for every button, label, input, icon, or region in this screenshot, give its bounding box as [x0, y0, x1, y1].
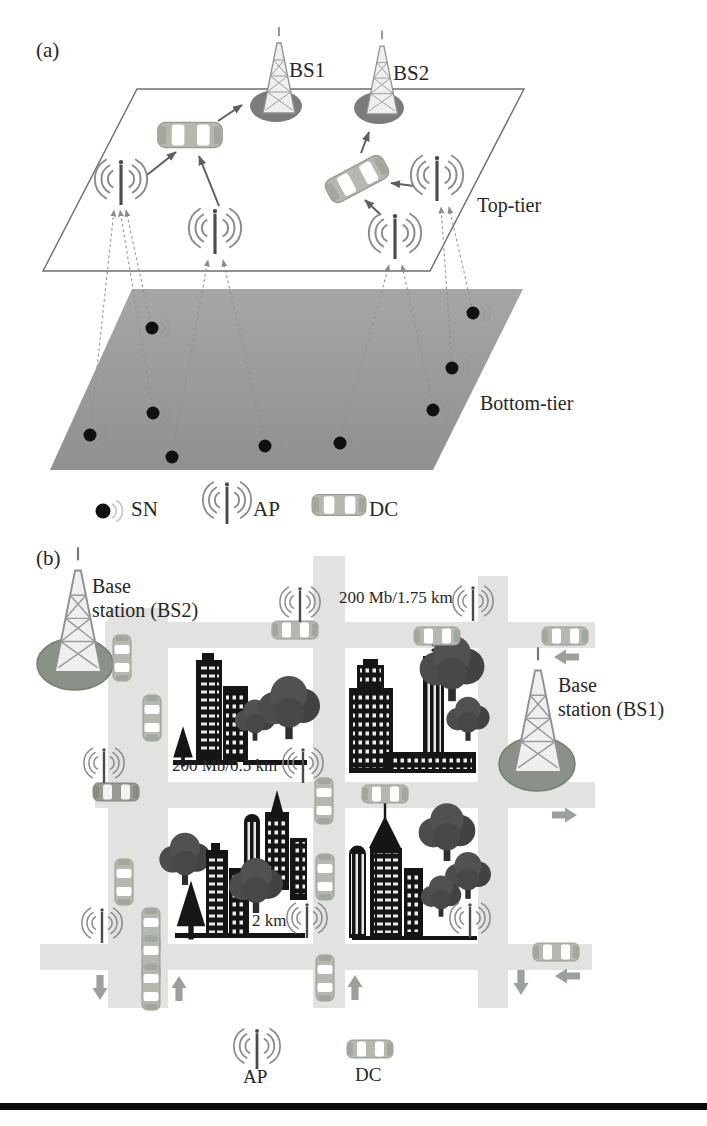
legend-dc-icon [312, 494, 366, 515]
panel-a [43, 27, 524, 524]
bottom-tier-label: Bottom-tier [480, 392, 573, 416]
legend-dc-label: DC [369, 497, 398, 522]
legend-b-dc-label: DC [355, 1064, 381, 1086]
figure-graphics [0, 0, 707, 1126]
dc-car-icon [143, 695, 161, 741]
dc-car-icon [316, 854, 334, 900]
bs1-label: BS1 [289, 58, 325, 83]
dc-car-icon [414, 627, 460, 645]
dc-car-icon [272, 621, 318, 639]
bottom-divider-bar [0, 1103, 707, 1110]
traffic-arrow-down-icon [514, 970, 529, 995]
dc-car-icon [115, 859, 133, 905]
traffic-arrow-left-icon [554, 650, 579, 665]
base-station-bs2-label: Base station (BS2) [92, 575, 198, 622]
dc-car-icon [362, 785, 408, 803]
bs1-tower-icon [515, 647, 561, 772]
legend-sn-icon [96, 500, 123, 522]
panel-a-label: (a) [36, 38, 59, 63]
panel-b-label: (b) [36, 546, 61, 571]
road-horizontal-top [105, 622, 595, 648]
city-block-top-right [349, 635, 490, 773]
bs2-label: BS2 [393, 61, 429, 86]
pine-tree-icon [177, 881, 206, 940]
figure-canvas: (a) BS1 BS2 Top-tier Bottom-tier SN AP D… [0, 0, 707, 1126]
panel-b [37, 547, 595, 1069]
legend-ap-label: AP [253, 497, 280, 522]
link-top-label: 200 Mb/1.75 km [339, 588, 453, 608]
dc-car-icon [142, 964, 160, 1010]
traffic-arrow-down-icon [93, 975, 108, 1000]
dc-car-icon [316, 955, 334, 1001]
dc-car-icon [533, 943, 579, 961]
bottom-tier-plane [50, 289, 523, 470]
traffic-arrow-right-icon [552, 808, 577, 823]
traffic-arrow-up-icon [348, 975, 363, 1000]
legend-ap-icon [203, 482, 251, 524]
legend-sn-label: SN [131, 497, 158, 522]
dc-car-icon [93, 783, 139, 801]
dc-car-icon [113, 635, 131, 681]
link-left-label: 200 Mb/0.5 km [172, 756, 277, 776]
city-block-top-left [173, 653, 320, 767]
dc-car-icon [158, 122, 222, 147]
legend-b-ap-label: AP [243, 1066, 267, 1088]
dc-car-icon [542, 627, 588, 645]
traffic-arrow-up-icon [172, 976, 187, 1001]
legend-ap-icon [234, 1029, 280, 1069]
link-bottom-label: 2 km [252, 911, 286, 931]
base-station-bs1-label: Base station (BS1) [558, 674, 664, 721]
dc-car-icon [315, 778, 333, 824]
traffic-arrow-left-icon [555, 969, 580, 984]
top-tier-label: Top-tier [477, 194, 541, 218]
legend-dc-icon [347, 1040, 393, 1058]
